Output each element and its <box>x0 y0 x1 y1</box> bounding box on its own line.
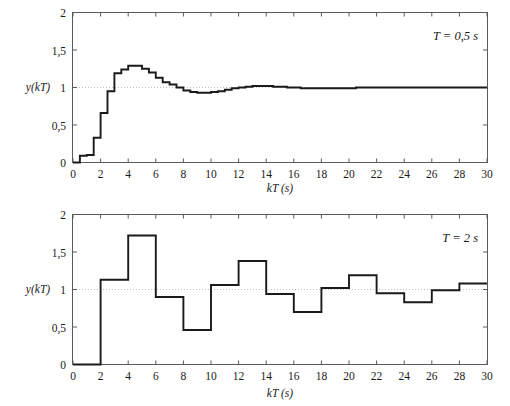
y-tick-label: 1 <box>60 82 66 94</box>
x-tick-label: 26 <box>426 168 438 180</box>
x-axis-label-top: kT (s) <box>267 182 293 195</box>
x-tick-label: 8 <box>181 370 187 382</box>
y-axis-label-bottom: y(kT) <box>25 283 50 296</box>
x-tick-label: 30 <box>481 370 493 382</box>
annotation-sample-period-top: T = 0,5 s <box>433 29 478 43</box>
x-tick-label: 0 <box>70 168 76 180</box>
y-tick-label: 0,5 <box>52 120 67 133</box>
annotation-sample-period-bottom: T = 2 s <box>442 231 478 245</box>
chart-panel-bottom: 02468101214161820222426283000,511,52 T =… <box>0 200 510 406</box>
y-tick-label: 2 <box>60 7 66 19</box>
chart-svg-top: 02468101214161820222426283000,511,52 T =… <box>0 0 510 200</box>
x-tick-label: 20 <box>343 370 355 382</box>
y-tick-label: 1 <box>60 284 66 296</box>
x-tick-label: 30 <box>481 168 493 180</box>
x-tick-label: 24 <box>398 168 410 180</box>
x-tick-label: 10 <box>205 370 217 382</box>
x-tick-label: 16 <box>288 168 300 180</box>
x-tick-label: 8 <box>181 168 187 180</box>
x-tick-label: 14 <box>260 370 272 382</box>
x-tick-label: 20 <box>343 168 355 180</box>
x-axis-label-bottom: kT (s) <box>267 387 293 400</box>
x-tick-label: 22 <box>371 370 383 382</box>
x-tick-label: 2 <box>98 370 104 382</box>
x-tick-label: 2 <box>98 168 104 180</box>
x-tick-label: 6 <box>153 168 159 180</box>
x-tick-label: 18 <box>316 370 328 382</box>
y-tick-label: 2 <box>60 209 66 221</box>
x-tick-label: 26 <box>426 370 438 382</box>
x-tick-label: 16 <box>288 370 300 382</box>
x-tick-label: 6 <box>153 370 159 382</box>
x-tick-label: 28 <box>454 168 466 180</box>
y-axis-label-top: y(kT) <box>25 81 50 94</box>
x-tick-label: 18 <box>316 168 328 180</box>
y-tick-label: 1,5 <box>52 45 67 58</box>
x-tick-label: 24 <box>398 370 410 382</box>
x-tick-label: 0 <box>70 370 76 382</box>
y-tick-label: 0 <box>60 157 66 169</box>
y-tick-label: 0 <box>60 359 66 371</box>
x-tick-label: 4 <box>125 168 131 180</box>
y-tick-label: 0,5 <box>52 322 67 335</box>
x-tick-label: 12 <box>233 370 245 382</box>
x-tick-label: 10 <box>205 168 217 180</box>
chart-svg-bottom: 02468101214161820222426283000,511,52 T =… <box>0 200 510 406</box>
x-tick-label: 4 <box>125 370 131 382</box>
x-tick-label: 12 <box>233 168 245 180</box>
x-tick-label: 28 <box>454 370 466 382</box>
x-tick-label: 22 <box>371 168 383 180</box>
chart-panel-top: 02468101214161820222426283000,511,52 T =… <box>0 0 510 200</box>
figure-step-responses: 02468101214161820222426283000,511,52 T =… <box>0 0 510 406</box>
x-tick-label: 14 <box>260 168 272 180</box>
y-tick-label: 1,5 <box>52 247 67 260</box>
